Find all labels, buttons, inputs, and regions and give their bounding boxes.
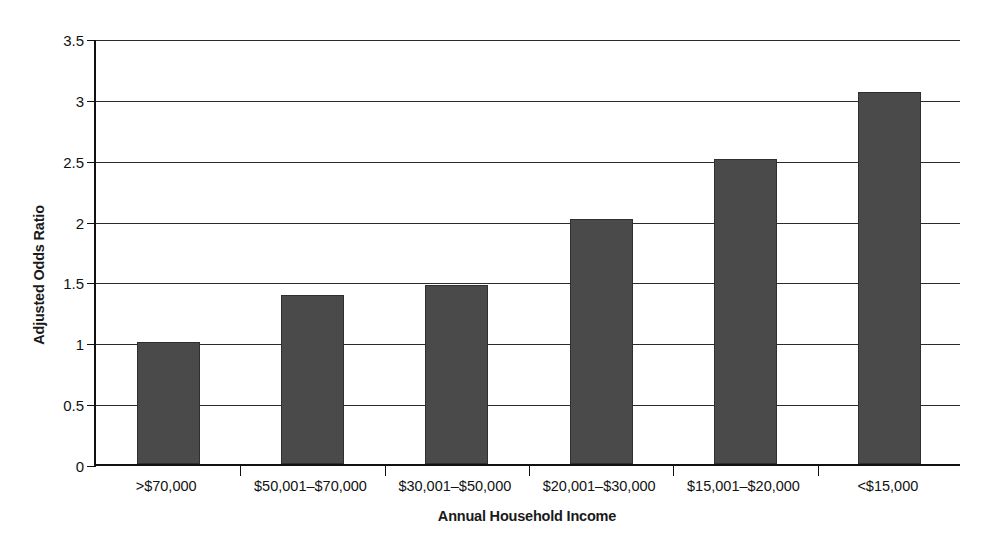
y-axis-tick-label: 1 <box>38 336 84 353</box>
x-axis-tick-label: $50,001–$70,000 <box>254 478 367 494</box>
y-axis-tick-label: 0 <box>38 458 84 475</box>
y-axis-tick-label: 3.5 <box>38 32 84 49</box>
bar-chart: Adjusted Odds Ratio 00.511.522.533.5 >$7… <box>0 0 991 550</box>
gridline <box>96 101 960 102</box>
y-axis-tick-label: 1.5 <box>38 275 84 292</box>
y-axis-tick-label: 3 <box>38 92 84 109</box>
gridline <box>96 223 960 224</box>
gridline <box>96 162 960 163</box>
y-axis-tick-mark <box>87 344 96 345</box>
x-axis-tick-mark <box>385 464 386 476</box>
bar <box>858 92 921 464</box>
y-axis-tick-mark <box>87 101 96 102</box>
y-axis-tick-mark <box>87 223 96 224</box>
y-axis-tick-labels: 00.511.522.533.5 <box>38 0 84 550</box>
gridline <box>96 344 960 345</box>
x-axis-tick-mark <box>818 464 819 476</box>
x-axis-title: Annual Household Income <box>94 508 960 524</box>
y-axis-tick-label: 2.5 <box>38 153 84 170</box>
bar <box>714 159 777 465</box>
bar <box>570 219 633 464</box>
y-axis-tick-label: 0.5 <box>38 397 84 414</box>
plot-area <box>94 40 960 466</box>
gridline <box>96 405 960 406</box>
gridline <box>96 283 960 284</box>
x-axis-tick-mark <box>673 464 674 476</box>
bar <box>425 285 488 464</box>
bar <box>281 295 344 464</box>
y-axis-tick-mark <box>87 466 96 467</box>
x-axis-tick-mark <box>240 464 241 476</box>
bar <box>137 342 200 464</box>
x-axis-tick-labels: >$70,000$50,001–$70,000$30,001–$50,000$2… <box>94 478 960 504</box>
gridline <box>96 40 960 41</box>
y-axis-tick-label: 2 <box>38 214 84 231</box>
x-axis-tick-label: $15,001–$20,000 <box>687 478 800 494</box>
x-axis-tick-label: <$15,000 <box>857 478 918 494</box>
x-axis-tick-mark <box>529 464 530 476</box>
y-axis-tick-mark <box>87 283 96 284</box>
y-axis-tick-mark <box>87 162 96 163</box>
y-axis-tick-mark <box>87 405 96 406</box>
x-axis-tick-label: $20,001–$30,000 <box>543 478 656 494</box>
x-axis-tick-label: $30,001–$50,000 <box>398 478 511 494</box>
x-axis-tick-label: >$70,000 <box>136 478 197 494</box>
y-axis-tick-mark <box>87 40 96 41</box>
